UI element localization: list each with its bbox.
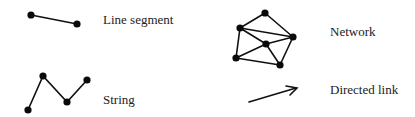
line-segment-label: Line segment xyxy=(103,13,173,26)
primitives-diagram: Line segment String Network Directed lin… xyxy=(0,0,415,117)
directed-link-label: Directed link xyxy=(330,83,398,96)
network-label: Network xyxy=(330,25,376,38)
network-figure xyxy=(232,9,296,68)
directed-link-figure xyxy=(249,86,297,102)
string-figure xyxy=(24,72,90,113)
string-label: String xyxy=(103,93,135,106)
line-segment-figure xyxy=(27,11,80,27)
